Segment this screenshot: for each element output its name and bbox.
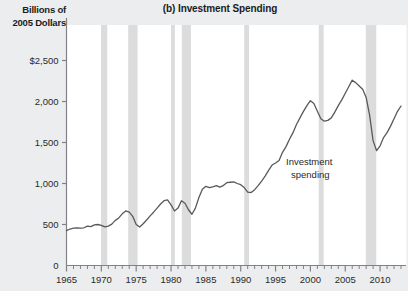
recession-band (101, 25, 107, 266)
recession-band (128, 25, 137, 266)
x-axis-tick-label: 1980 (160, 274, 181, 285)
y-axis-tick-label: 1,000 (35, 178, 59, 189)
y-axis-ticks-group: 05001,0001,5002,000$2,500 (29, 55, 66, 271)
x-axis-tick-label: 2005 (335, 274, 356, 285)
x-axis-tick-label: 1990 (230, 274, 251, 285)
series-annotation-line-1: Investment (286, 156, 333, 167)
chart-plot-area: 05001,0001,5002,000$2,500 19651970197519… (0, 0, 408, 291)
recession-band (182, 25, 191, 266)
y-axis-tick-label: 500 (43, 219, 59, 230)
recession-band (319, 25, 324, 266)
series-annotation-line-2: spending (291, 169, 330, 180)
x-axis-tick-label: 2010 (370, 274, 391, 285)
x-axis-tick-label: 1995 (265, 274, 286, 285)
x-axis-tick-label: 1975 (126, 274, 147, 285)
y-axis-tick-label: $2,500 (29, 55, 58, 66)
recession-band (171, 25, 175, 266)
y-axis-tick-label: 1,500 (35, 137, 59, 148)
investment-spending-figure: Billions of 2005 Dollars (b) Investment … (0, 0, 408, 291)
plot-background (66, 25, 407, 266)
x-axis-tick-label: 1965 (56, 274, 77, 285)
x-axis-tick-label: 1985 (195, 274, 216, 285)
x-axis-ticks-group: 1965197019751980198519901995200020052010 (56, 266, 401, 285)
x-axis-tick-label: 2000 (300, 274, 321, 285)
y-axis-tick-label: 2,000 (35, 96, 59, 107)
x-axis-tick-label: 1970 (91, 274, 112, 285)
recession-band (244, 25, 249, 266)
y-axis-tick-label: 0 (53, 260, 58, 271)
